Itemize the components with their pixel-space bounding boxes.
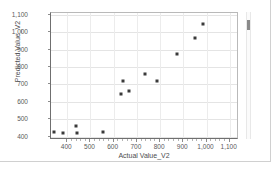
x-axis-minor-tick	[94, 139, 95, 141]
x-axis-minor-tick	[164, 139, 165, 141]
y-axis-tick-mark	[48, 101, 50, 102]
x-axis-minor-tick	[219, 139, 220, 141]
x-axis-minor-tick	[80, 139, 81, 141]
y-axis-tick-label: 500	[17, 115, 28, 122]
x-axis-tick-mark	[113, 139, 114, 142]
gridline-vertical	[160, 13, 161, 138]
x-axis-tick-label: 700	[130, 143, 141, 150]
x-axis-minor-tick	[131, 139, 132, 141]
x-axis-tick-label: 1,000	[197, 143, 213, 150]
x-axis-minor-tick	[99, 139, 100, 141]
y-axis-tick-mark	[48, 118, 50, 119]
x-axis-minor-tick	[127, 139, 128, 141]
x-axis-minor-tick	[192, 139, 193, 141]
x-axis-minor-tick	[154, 139, 155, 141]
x-axis-minor-tick	[141, 139, 142, 141]
plot-area	[50, 12, 238, 139]
gridline-horizontal	[51, 102, 237, 103]
x-axis-minor-tick	[187, 139, 188, 141]
gridline-vertical	[137, 13, 138, 138]
gridline-vertical	[230, 13, 231, 138]
gridline-vertical	[114, 13, 115, 138]
x-axis-minor-tick	[168, 139, 169, 141]
scatter-point	[53, 131, 56, 134]
x-axis-tick-mark	[206, 139, 207, 142]
y-axis-tick-label: 400	[17, 132, 28, 139]
x-axis-minor-tick	[85, 139, 86, 141]
x-axis-tick-label: 600	[107, 143, 118, 150]
y-axis-tick-mark	[48, 83, 50, 84]
x-axis-tick-mark	[159, 139, 160, 142]
x-axis-minor-tick	[103, 139, 104, 141]
scrollbar-thumb[interactable]	[247, 20, 250, 30]
x-axis-title: Actual Value_V2	[50, 152, 238, 159]
scatter-point	[176, 53, 179, 56]
gridline-horizontal	[51, 84, 237, 85]
scatter-point	[121, 79, 124, 82]
scatter-point	[193, 36, 196, 39]
x-axis-tick-label: 400	[61, 143, 72, 150]
y-axis-tick-mark	[48, 49, 50, 50]
y-axis-tick-label: 1,000	[12, 28, 28, 35]
y-axis-tick-mark	[48, 14, 50, 15]
x-axis-tick-mark	[182, 139, 183, 142]
x-axis-minor-tick	[173, 139, 174, 141]
x-axis-tick-mark	[136, 139, 137, 142]
gridline-horizontal	[51, 119, 237, 120]
y-axis-tick-mark	[48, 136, 50, 137]
x-axis-tick-mark	[229, 139, 230, 142]
gridline-horizontal	[51, 15, 237, 16]
x-axis-minor-tick	[117, 139, 118, 141]
x-axis-minor-tick	[76, 139, 77, 141]
y-axis-tick-label: 1,100	[12, 10, 28, 17]
x-axis-minor-tick	[145, 139, 146, 141]
gridline-horizontal	[51, 67, 237, 68]
x-axis-tick-label: 800	[154, 143, 165, 150]
x-axis-minor-tick	[108, 139, 109, 141]
x-axis-minor-tick	[150, 139, 151, 141]
x-axis-tick-label: 900	[177, 143, 188, 150]
scatter-point	[102, 131, 105, 134]
chart-panel: Predicted Value_V2 Actual Value_V2 40050…	[0, 0, 271, 162]
gridline-vertical	[207, 13, 208, 138]
scatter-point	[143, 72, 146, 75]
scatter-point	[120, 93, 123, 96]
gridline-vertical	[183, 13, 184, 138]
gridline-vertical	[67, 13, 68, 138]
x-axis-minor-tick	[215, 139, 216, 141]
x-axis-minor-tick	[201, 139, 202, 141]
x-axis-minor-tick	[224, 139, 225, 141]
x-axis-minor-tick	[71, 139, 72, 141]
y-axis-tick-mark	[48, 31, 50, 32]
x-axis-tick-label: 500	[84, 143, 95, 150]
scatter-point	[61, 132, 64, 135]
scatter-point	[128, 89, 131, 92]
x-axis-minor-tick	[122, 139, 123, 141]
x-axis-minor-tick	[210, 139, 211, 141]
x-axis-minor-tick	[196, 139, 197, 141]
x-axis-tick-mark	[66, 139, 67, 142]
x-axis-minor-tick	[178, 139, 179, 141]
scatter-point	[156, 79, 159, 82]
y-axis-tick-label: 900	[17, 45, 28, 52]
gridline-horizontal	[51, 137, 237, 138]
scatter-point	[202, 22, 205, 25]
x-axis-tick-mark	[89, 139, 90, 142]
scatter-chart: Predicted Value_V2 Actual Value_V2 40050…	[0, 0, 272, 176]
y-axis-tick-label: 700	[17, 80, 28, 87]
scatter-point	[75, 132, 78, 135]
y-axis-tick-label: 800	[17, 62, 28, 69]
scrollbar-track[interactable]	[246, 12, 251, 139]
gridline-vertical	[90, 13, 91, 138]
x-axis-tick-label: 1,100	[221, 143, 237, 150]
scatter-point	[74, 124, 77, 127]
gridline-horizontal	[51, 32, 237, 33]
gridline-horizontal	[51, 50, 237, 51]
y-axis-tick-label: 600	[17, 97, 28, 104]
y-axis-tick-mark	[48, 66, 50, 67]
